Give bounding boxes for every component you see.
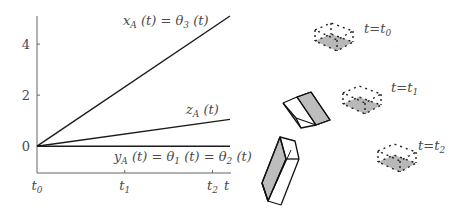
x-tick-label: t1 — [119, 178, 130, 195]
x-tick-label: t0 — [32, 178, 43, 195]
x-axis-label: t — [224, 178, 230, 193]
time-label-t1: t=t1 — [391, 80, 418, 97]
rotated-box-1 — [283, 92, 330, 128]
series-line-1 — [37, 119, 230, 146]
rotated-box-2 — [262, 137, 299, 205]
pose-t1 — [343, 86, 381, 114]
xA-label: xA (t) = θ3 (t) — [123, 13, 209, 30]
pose-t2 — [378, 144, 416, 172]
shaded-base — [315, 34, 353, 51]
time-label-t2: t=t2 — [418, 138, 445, 155]
series-line-0 — [37, 16, 230, 146]
figure: 024t0t1t2 xA (t) = θ3 (t) zA (t) yA (t) … — [0, 0, 466, 213]
pose-t0 — [315, 23, 353, 51]
y-tick-label: 0 — [22, 139, 30, 154]
yA-label: yA (t) = θ1 (t) = θ2 (t) — [113, 149, 252, 166]
y-tick-label: 4 — [22, 37, 30, 52]
series-lines — [37, 16, 230, 146]
zA-label: zA (t) — [185, 102, 219, 119]
time-label-t0: t=t0 — [364, 21, 391, 38]
y-tick-label: 2 — [22, 88, 30, 103]
x-tick-label: t2 — [207, 178, 218, 195]
